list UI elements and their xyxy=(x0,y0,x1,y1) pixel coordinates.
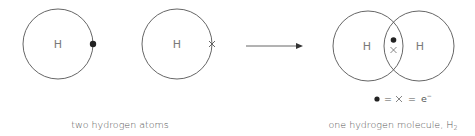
shared-electron-cross-icon xyxy=(391,47,397,53)
caption-molecule-subscript: 2 xyxy=(453,124,457,132)
electron-dot-icon xyxy=(90,41,96,47)
legend-equals-2: = xyxy=(408,93,416,104)
molecule-right-label: H xyxy=(416,40,424,53)
shared-electron-dot-icon xyxy=(391,37,397,43)
diagram: H H H H = = e− xyxy=(0,0,475,136)
electron-charge: − xyxy=(427,92,432,99)
atom-label: H xyxy=(54,38,62,51)
legend-equals-1: = xyxy=(384,93,392,104)
molecule-left-label: H xyxy=(363,40,371,53)
caption-molecule: one hydrogen molecule, H2 xyxy=(328,119,457,132)
legend-electron: e− xyxy=(421,92,432,104)
reaction-arrow-icon xyxy=(246,43,303,49)
atom-label: H xyxy=(173,38,181,51)
caption-molecule-main: one hydrogen molecule, H xyxy=(328,119,453,130)
legend: = = e− xyxy=(374,92,431,104)
hydrogen-atom-1: H xyxy=(23,9,96,79)
caption-atoms: two hydrogen atoms xyxy=(71,119,169,130)
legend-dot-icon xyxy=(374,96,379,101)
hydrogen-atom-2: H xyxy=(142,9,215,79)
hydrogen-molecule: H H xyxy=(333,11,454,81)
legend-cross-icon xyxy=(396,96,402,102)
